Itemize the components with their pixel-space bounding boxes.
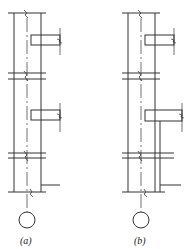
panel-a-label: (a): [20, 235, 32, 246]
panel-a: [8, 10, 62, 228]
diagram-canvas: [0, 0, 189, 249]
panel-b: [122, 10, 184, 228]
panel-b-label: (b): [134, 235, 146, 246]
